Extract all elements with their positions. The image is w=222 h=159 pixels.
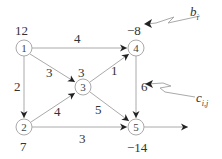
node-5: 5 [128,119,144,135]
edge-3-5-cost: 5 [95,103,102,116]
edge-2-3 [31,93,75,122]
edge-1-3 [30,54,75,82]
cost-pointer-icon [147,83,195,97]
edge-2-5-cost: 3 [79,132,86,145]
cost-annotation-subscript: i,j [202,99,208,108]
edge-1-3-cost: 3 [46,66,53,79]
edge-4-5-cost: 6 [141,80,148,93]
edge-3-4 [90,54,129,82]
node-4-supply: −8 [127,24,141,37]
graph-svg: 1 2 3 4 5 [0,0,222,159]
svg-text:4: 4 [133,42,139,54]
svg-text:5: 5 [133,121,139,133]
supply-annotation-subscript: i [197,13,199,22]
svg-text:1: 1 [21,42,27,54]
network-diagram: 1 2 3 4 5 12 7 3 −8 −14 4 3 2 4 3 1 [0,0,222,159]
node-5-supply: −14 [127,141,147,154]
cost-annotation: ci,j [196,91,208,108]
node-3-supply: 3 [78,66,85,79]
edge-1-2-cost: 2 [14,80,21,93]
node-1: 1 [16,40,32,56]
svg-text:2: 2 [21,121,27,133]
node-4: 4 [128,40,144,56]
node-2: 2 [16,119,32,135]
edge-2-3-cost: 4 [54,105,61,118]
node-1-supply: 12 [15,24,28,37]
svg-text:3: 3 [80,81,86,93]
node-3: 3 [75,79,91,95]
node-2-supply: 7 [20,140,27,153]
edge-1-4-cost: 4 [74,32,81,45]
edge-3-4-cost: 1 [111,64,118,77]
supply-annotation: bi [190,5,199,22]
